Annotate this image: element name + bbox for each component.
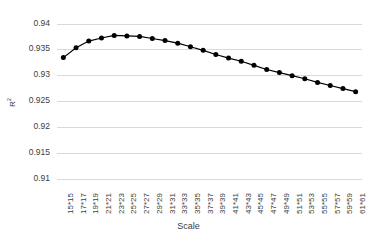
- data-point-marker: [188, 44, 193, 49]
- data-point-marker: [226, 56, 231, 61]
- data-point-marker: [315, 80, 320, 85]
- data-point-marker: [99, 35, 104, 40]
- data-point-marker: [112, 33, 117, 38]
- data-point-marker: [61, 55, 66, 60]
- data-point-marker: [74, 45, 79, 50]
- data-point-marker: [239, 59, 244, 64]
- data-point-marker: [328, 83, 333, 88]
- data-point-marker: [251, 63, 256, 68]
- data-point-marker: [175, 41, 180, 46]
- data-point-marker: [290, 73, 295, 78]
- data-point-marker: [124, 33, 129, 38]
- data-point-marker: [302, 76, 307, 81]
- data-point-marker: [150, 36, 155, 41]
- data-point-marker: [340, 86, 345, 91]
- data-point-marker: [163, 38, 168, 43]
- line-series-plot: [0, 0, 377, 241]
- data-point-marker: [201, 48, 206, 53]
- data-point-marker: [86, 39, 91, 44]
- series-line: [63, 35, 355, 91]
- data-point-marker: [264, 67, 269, 72]
- data-point-marker: [353, 89, 358, 94]
- data-point-marker: [277, 70, 282, 75]
- data-point-marker: [137, 34, 142, 39]
- data-point-marker: [213, 52, 218, 57]
- chart-container: R2 0.940.9350.930.9250.920.9150.91 15*15…: [0, 0, 377, 241]
- x-axis-title: Scale: [0, 221, 377, 231]
